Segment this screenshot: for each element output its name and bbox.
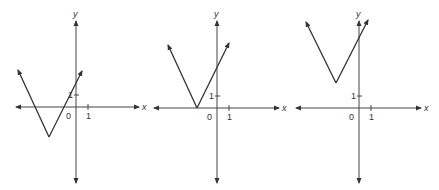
absolute-value-graphs-figure: xy011xy011xy011 (0, 0, 439, 190)
tick-label-x: 1 (369, 112, 374, 122)
graph-2: xy011 (154, 9, 287, 183)
tick-label-x: 1 (227, 112, 232, 122)
origin-label: 0 (207, 112, 212, 122)
y-axis-label: y (213, 9, 219, 19)
origin-label: 0 (66, 111, 71, 121)
tick-label-y: 1 (351, 91, 356, 101)
v-left-branch (18, 70, 49, 137)
x-axis-label: x (281, 103, 287, 113)
x-axis-label: x (423, 103, 429, 113)
v-right-branch (336, 20, 368, 83)
x-axis-label: x (141, 102, 147, 112)
graph-1: xy011 (16, 9, 147, 183)
y-axis-label: y (355, 9, 361, 19)
v-left-branch (168, 45, 197, 108)
v-right-branch (49, 71, 82, 137)
tick-label-x: 1 (86, 111, 91, 121)
tick-label-y: 1 (209, 91, 214, 101)
graph-3: xy011 (296, 9, 429, 183)
origin-label: 0 (349, 112, 354, 122)
y-axis-label: y (72, 9, 78, 19)
v-left-branch (306, 22, 336, 83)
